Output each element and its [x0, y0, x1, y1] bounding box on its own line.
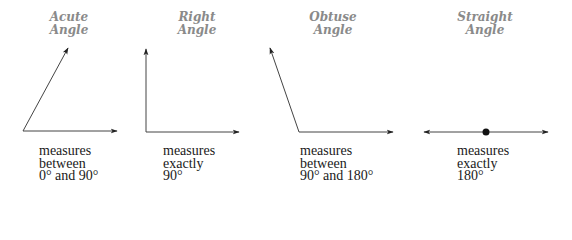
obtuse-desc-line3: 90° and 180° — [300, 170, 373, 183]
right-desc-line3: 90° — [163, 170, 215, 183]
straight-angle-description: measures exactly 180° — [457, 145, 509, 183]
straight-angle-figure — [424, 129, 548, 136]
obtuse-angle-description: measures between 90° and 180° — [300, 145, 373, 183]
acute-ray-up-icon — [23, 48, 68, 131]
obtuse-angle-figure — [270, 48, 393, 132]
acute-desc-line3: 0° and 90° — [39, 170, 98, 183]
right-angle-figure — [146, 49, 239, 132]
acute-angle-description: measures between 0° and 90° — [39, 145, 98, 183]
obtuse-ray-up-left-icon — [270, 48, 299, 132]
vertex-dot-icon — [483, 129, 490, 136]
right-angle-description: measures exactly 90° — [163, 145, 215, 183]
straight-desc-line3: 180° — [457, 170, 509, 183]
acute-angle-figure — [23, 48, 117, 131]
